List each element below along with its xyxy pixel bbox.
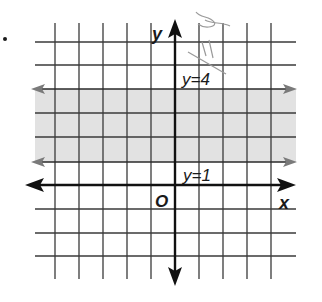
boundary-label-y4: y=4 [181, 70, 210, 89]
shaded-region [35, 89, 296, 162]
problem-marker-dot [3, 37, 7, 41]
coordinate-graph: y x O y=4 y=1 [0, 0, 322, 302]
boundary-label-y1: y=1 [182, 166, 211, 185]
x-axis-label: x [278, 193, 290, 213]
y-axis-label: y [151, 24, 163, 44]
origin-label: O [155, 192, 168, 211]
x-axis [25, 178, 296, 192]
